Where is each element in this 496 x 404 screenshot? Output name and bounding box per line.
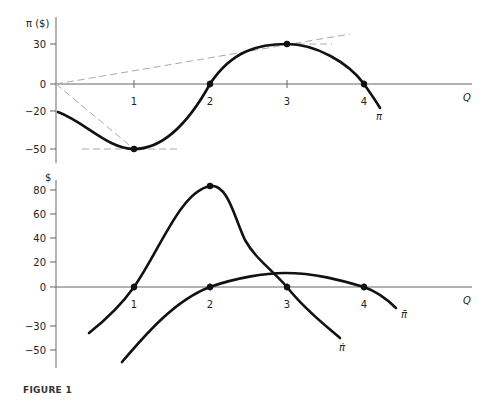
bottom-y-tick-label: 20 xyxy=(33,257,46,268)
bottom-y-tick-label: 80 xyxy=(33,185,46,196)
point-minimum xyxy=(131,146,137,152)
figure-canvas: 30 0 −20 −50 1 2 3 4 π ($) Q π xyxy=(0,0,496,404)
top-y-axis-title: π ($) xyxy=(26,18,49,29)
top-y-tick-label: 30 xyxy=(33,39,46,50)
point-zero-crossing xyxy=(361,81,367,87)
marginal-profit-label: π̇ xyxy=(339,342,346,353)
bottom-y-tick-label: 40 xyxy=(33,233,46,244)
point-maximum xyxy=(284,41,290,47)
point-marginal-zero xyxy=(131,284,137,290)
top-x-tick-label: 2 xyxy=(207,96,213,107)
figure-caption: FIGURE 1 xyxy=(23,385,72,395)
bottom-x-tick-label: 1 xyxy=(131,299,137,310)
profit-curve xyxy=(58,44,380,149)
marginal-profit-curve xyxy=(89,186,340,338)
point-average-zero xyxy=(361,284,367,290)
bottom-y-axis-title: $ xyxy=(45,172,51,183)
bottom-x-tick-label: 2 xyxy=(207,299,213,310)
top-y-tick-label: −50 xyxy=(25,144,46,155)
bottom-chart: 80 60 40 20 0 −30 −50 1 2 3 4 $ Q π̇ π̄ xyxy=(25,172,472,368)
average-profit-label: π̄ xyxy=(401,309,408,320)
top-chart: 30 0 −20 −50 1 2 3 4 π ($) Q π xyxy=(25,17,472,163)
profit-curve-label: π xyxy=(376,111,383,122)
top-x-tick-label: 1 xyxy=(131,96,137,107)
point-marginal-peak xyxy=(207,183,213,189)
bottom-y-tick-label: −50 xyxy=(25,345,46,356)
top-y-tick-label: 0 xyxy=(40,79,46,90)
average-profit-curve xyxy=(122,273,396,362)
bottom-x-tick-label: 4 xyxy=(361,299,367,310)
point-zero-crossing xyxy=(207,81,213,87)
bottom-x-tick-label: 3 xyxy=(284,299,290,310)
bottom-x-axis-title: Q xyxy=(463,295,471,306)
top-x-axis-title: Q xyxy=(463,92,471,103)
top-x-tick-label: 3 xyxy=(284,96,290,107)
bottom-y-tick-label: −30 xyxy=(25,321,46,332)
bottom-y-tick-label: 60 xyxy=(33,209,46,220)
point-marginal-zero xyxy=(284,284,290,290)
ray-from-origin-upper xyxy=(56,34,350,84)
bottom-y-tick-label: 0 xyxy=(40,282,46,293)
point-average-zero xyxy=(207,284,213,290)
top-x-tick-label: 4 xyxy=(361,96,367,107)
top-y-tick-label: −20 xyxy=(25,106,46,117)
